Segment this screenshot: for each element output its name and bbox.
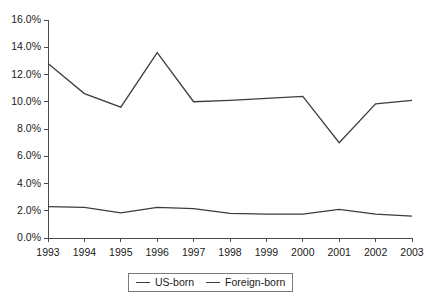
legend-label: US-born bbox=[155, 277, 194, 288]
legend-entry-us-born[interactable]: US-born bbox=[136, 277, 194, 288]
x-tick-label: 1994 bbox=[64, 247, 104, 258]
x-tick-label: 2000 bbox=[283, 247, 323, 258]
x-tick-label: 1995 bbox=[101, 247, 141, 258]
chart-series bbox=[48, 53, 412, 217]
y-tick-label: 0.0% bbox=[0, 232, 41, 243]
x-tick-label: 1998 bbox=[210, 247, 250, 258]
legend-label: Foreign-born bbox=[225, 277, 285, 288]
y-tick-label: 4.0% bbox=[0, 178, 41, 189]
x-tick-label: 2001 bbox=[319, 247, 359, 258]
y-tick-label: 10.0% bbox=[0, 96, 41, 107]
series-line-foreign-born bbox=[48, 53, 412, 143]
chart-legend: US-bornForeign-born bbox=[128, 273, 293, 292]
legend-line-swatch-icon bbox=[206, 282, 220, 283]
y-tick-label: 12.0% bbox=[0, 69, 41, 80]
legend-line-swatch-icon bbox=[136, 282, 150, 283]
series-line-us-born bbox=[48, 207, 412, 217]
y-tick-label: 2.0% bbox=[0, 205, 41, 216]
x-tick-label: 2002 bbox=[356, 247, 396, 258]
x-tick-label: 1997 bbox=[174, 247, 214, 258]
line-chart: 0.0%2.0%4.0%6.0%8.0%10.0%12.0%14.0%16.0%… bbox=[0, 0, 426, 301]
x-tick-label: 1996 bbox=[137, 247, 177, 258]
y-tick-label: 8.0% bbox=[0, 123, 41, 134]
y-tick-label: 16.0% bbox=[0, 14, 41, 25]
x-tick-label: 1993 bbox=[28, 247, 68, 258]
legend-entry-foreign-born[interactable]: Foreign-born bbox=[206, 277, 285, 288]
y-tick-label: 6.0% bbox=[0, 150, 41, 161]
chart-axes bbox=[44, 20, 412, 242]
x-tick-label: 1999 bbox=[246, 247, 286, 258]
y-tick-label: 14.0% bbox=[0, 41, 41, 52]
x-tick-label: 2003 bbox=[392, 247, 426, 258]
